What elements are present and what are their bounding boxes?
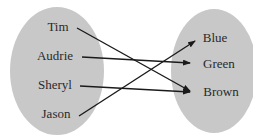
mapping-diagram: Tim Audrie Sheryl Jason Blue Green Brown	[0, 0, 253, 135]
range-item-blue: Blue	[203, 30, 228, 45]
range-item-green: Green	[203, 56, 235, 71]
domain-item-sheryl: Sheryl	[38, 77, 72, 92]
domain-item-jason: Jason	[42, 106, 71, 121]
domain-item-audrie: Audrie	[37, 48, 73, 63]
range-oval	[171, 9, 253, 133]
domain-item-tim: Tim	[47, 19, 68, 34]
range-item-brown: Brown	[203, 84, 239, 99]
